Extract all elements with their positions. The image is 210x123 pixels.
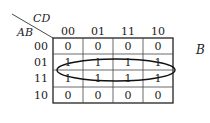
kmap-cell: 1 bbox=[53, 57, 83, 68]
kmap-cell: 0 bbox=[53, 41, 83, 52]
kmap-cell: 0 bbox=[113, 90, 143, 101]
kmap-cell: 0 bbox=[143, 90, 173, 101]
row-header: 00 bbox=[28, 41, 48, 52]
kmap-cell: 0 bbox=[83, 41, 113, 52]
kmap-cell: 1 bbox=[83, 57, 113, 68]
row-variable-label: AB bbox=[17, 27, 33, 38]
row-header: 11 bbox=[28, 73, 48, 84]
kmap-cell: 0 bbox=[53, 90, 83, 101]
col-header: 11 bbox=[113, 26, 143, 37]
kmap-cell: 0 bbox=[113, 41, 143, 52]
col-header: 00 bbox=[53, 26, 83, 37]
kmap-cell: 0 bbox=[83, 90, 113, 101]
kmap-cell: 0 bbox=[143, 41, 173, 52]
col-header: 10 bbox=[143, 26, 173, 37]
kmap-cell: 1 bbox=[113, 73, 143, 84]
kmap-cell: 1 bbox=[53, 73, 83, 84]
row-header: 10 bbox=[28, 90, 48, 101]
row-header: 01 bbox=[28, 57, 48, 68]
col-variable-label: CD bbox=[33, 13, 50, 24]
col-header: 01 bbox=[83, 26, 113, 37]
kmap-cell: 1 bbox=[113, 57, 143, 68]
kmap-cell: 1 bbox=[83, 73, 113, 84]
kmap-cell: 1 bbox=[143, 57, 173, 68]
kmap-cell: 1 bbox=[143, 73, 173, 84]
group-label: B bbox=[196, 45, 205, 56]
